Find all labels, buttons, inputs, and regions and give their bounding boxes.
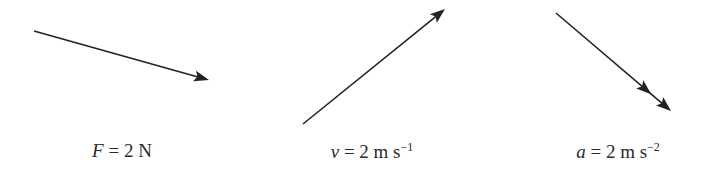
- force-vector-arrow: [34, 31, 205, 79]
- acceleration-symbol: a: [576, 141, 586, 162]
- acceleration-label: a = 2 m s−2: [576, 140, 660, 163]
- velocity-vector-arrow: [303, 12, 442, 124]
- velocity-label: v = 2 m s−1: [331, 140, 414, 163]
- arrowhead-icon: [430, 9, 445, 23]
- force-symbol: F: [92, 140, 104, 161]
- force-label: F = 2 N: [92, 140, 152, 162]
